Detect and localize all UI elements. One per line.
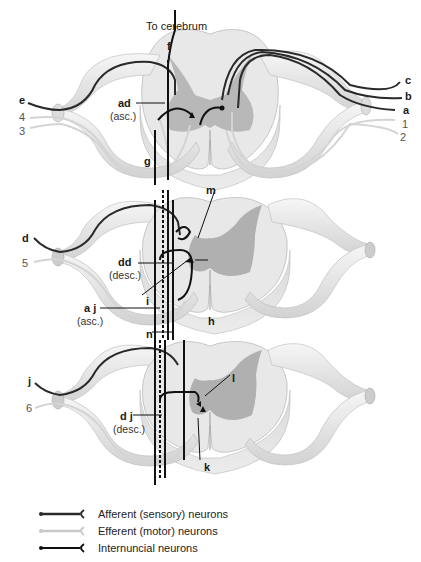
afferent-neuron-icon [38,509,88,519]
label-l: l [232,372,235,384]
label-k: k [204,461,210,473]
label-n: n [146,328,153,340]
legend-item-efferent: Efferent (motor) neurons [38,522,228,539]
label-dj-sub: (desc.) [113,423,145,435]
label-4: 4 [19,111,25,123]
label-1: 1 [402,118,408,130]
label-c: c [405,74,411,86]
label-ad: ad [118,97,131,109]
label-f: f [167,40,171,52]
label-g: g [144,155,151,167]
legend-label-afferent: Afferent (sensory) neurons [98,508,228,520]
legend: Afferent (sensory) neurons Efferent (mot… [38,505,228,556]
label-aj: a j [84,302,96,314]
legend-item-internuncial: Internuncial neurons [38,539,228,556]
label-e: e [19,94,25,106]
label-d: d [22,232,29,244]
label-dd: dd [118,256,131,268]
label-2: 2 [400,131,406,143]
efferent-neuron-icon [38,526,88,536]
label-3: 3 [19,125,25,137]
label-dj: d j [120,410,133,422]
legend-item-afferent: Afferent (sensory) neurons [38,505,228,522]
label-5: 5 [22,257,28,269]
label-a: a [403,104,409,116]
spinal-reflex-diagram [0,0,421,562]
to-cerebrum-label: To cerebrum [146,20,207,32]
legend-label-efferent: Efferent (motor) neurons [98,525,218,537]
internuncial-neuron-icon [38,543,88,553]
legend-label-internuncial: Internuncial neurons [98,542,198,554]
label-h: h [208,315,215,327]
label-6: 6 [26,402,32,414]
label-dd-sub: (desc.) [109,269,141,281]
label-m: m [206,184,216,196]
label-b: b [405,90,412,102]
label-i: i [146,295,149,307]
upper-segment [28,10,402,190]
label-aj-sub: (asc.) [77,315,103,327]
label-j: j [28,375,31,387]
label-ad-sub: (asc.) [110,110,136,122]
